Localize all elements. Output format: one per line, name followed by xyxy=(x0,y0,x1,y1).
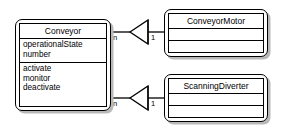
class-inner-conveyor: Conveyor operationalState number activat… xyxy=(19,23,107,107)
class-name-compartment-conveyor: Conveyor xyxy=(20,24,106,38)
hollow-triangle-arrowhead-upper xyxy=(130,20,148,44)
relationship-conveyor-to-conveyor-motor xyxy=(111,20,164,44)
class-inner-scanning-diverter: ScanningDiverter xyxy=(168,78,264,118)
hollow-triangle-arrowhead-lower xyxy=(130,86,148,110)
class-box-conveyor[interactable]: Conveyor operationalState number activat… xyxy=(15,19,111,111)
class-name-scanning-diverter: ScanningDiverter xyxy=(183,82,248,91)
class-operations-compartment-conveyor: activate monitor deactivate xyxy=(20,62,106,106)
class-operation: monitor xyxy=(23,74,103,84)
class-name-compartment-conveyor-motor: ConveyorMotor xyxy=(169,14,263,28)
multiplicity-scanning-diverter: 1 xyxy=(151,100,155,108)
class-attributes-compartment-conveyor: operationalState number xyxy=(20,38,106,62)
class-operation: deactivate xyxy=(23,83,103,93)
class-attribute: operationalState xyxy=(23,40,103,50)
relationship-conveyor-to-scanning-diverter xyxy=(111,86,164,110)
multiplicity-conveyor-upper: n xyxy=(113,34,117,42)
class-name-conveyor: Conveyor xyxy=(45,27,81,36)
multiplicity-conveyor-lower: n xyxy=(113,100,117,108)
class-name-conveyor-motor: ConveyorMotor xyxy=(187,17,245,26)
class-attributes-compartment-conveyor-motor xyxy=(169,28,263,40)
class-inner-conveyor-motor: ConveyorMotor xyxy=(168,13,264,53)
class-operations-compartment-conveyor-motor xyxy=(169,40,263,52)
class-attributes-compartment-scanning-diverter xyxy=(169,93,263,105)
class-name-compartment-scanning-diverter: ScanningDiverter xyxy=(169,79,263,93)
class-operation: activate xyxy=(23,64,103,74)
class-box-scanning-diverter[interactable]: ScanningDiverter xyxy=(164,74,268,122)
class-box-conveyor-motor[interactable]: ConveyorMotor xyxy=(164,9,268,57)
multiplicity-conveyor-motor: 1 xyxy=(151,34,155,42)
class-operations-compartment-scanning-diverter xyxy=(169,105,263,117)
class-attribute: number xyxy=(23,50,103,60)
